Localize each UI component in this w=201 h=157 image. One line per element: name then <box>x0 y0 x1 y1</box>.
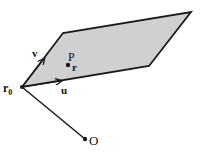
o-label: O <box>89 133 98 148</box>
plane-diagram: r0 v u P r O <box>0 0 201 157</box>
r0-position-line <box>22 87 85 139</box>
r-label: r <box>72 61 77 73</box>
o-point <box>83 137 87 141</box>
r0-point <box>20 85 24 89</box>
v-label: v <box>32 47 38 59</box>
u-label: u <box>61 84 67 96</box>
plane-parallelogram <box>22 12 191 87</box>
r0-label: r0 <box>3 81 12 97</box>
